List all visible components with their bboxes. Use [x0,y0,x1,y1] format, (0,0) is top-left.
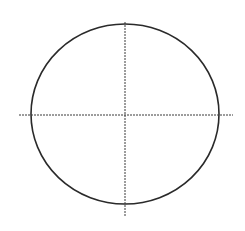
ellipse-diagram [0,0,245,231]
